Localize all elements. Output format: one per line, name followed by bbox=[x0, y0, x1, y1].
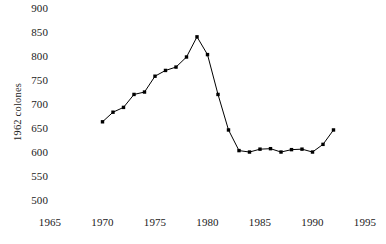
data-point-marker bbox=[132, 93, 135, 96]
data-point-marker bbox=[111, 111, 114, 114]
data-point-marker bbox=[237, 149, 240, 152]
data-point-marker bbox=[321, 143, 324, 146]
data-point-marker bbox=[122, 106, 125, 109]
data-point-marker bbox=[290, 148, 293, 151]
data-point-marker bbox=[269, 147, 272, 150]
data-point-marker bbox=[206, 53, 209, 56]
data-point-marker bbox=[279, 150, 282, 153]
data-point-marker bbox=[101, 120, 104, 123]
line-chart: 1962 colones 500550600650700750800850900… bbox=[0, 0, 386, 244]
data-point-marker bbox=[311, 150, 314, 153]
data-point-marker bbox=[227, 128, 230, 131]
data-point-marker bbox=[153, 75, 156, 78]
data-point-marker bbox=[143, 90, 146, 93]
data-point-marker bbox=[174, 65, 177, 68]
data-point-marker bbox=[164, 69, 167, 72]
data-point-marker bbox=[332, 128, 335, 131]
data-point-marker bbox=[185, 55, 188, 58]
data-point-marker bbox=[195, 35, 198, 38]
plot-area bbox=[0, 0, 386, 244]
data-point-marker bbox=[248, 150, 251, 153]
data-point-marker bbox=[258, 147, 261, 150]
data-point-marker bbox=[300, 147, 303, 150]
data-point-marker bbox=[216, 93, 219, 96]
